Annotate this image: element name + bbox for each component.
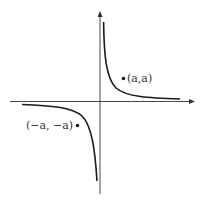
point-label-a-a: (a,a) [127, 72, 152, 85]
hyperbola-branch-quadrant-3 [22, 105, 97, 182]
hyperbola-branch-quadrant-1 [104, 22, 180, 99]
point-neg-a-neg-a [76, 124, 80, 128]
point-a-a [122, 77, 126, 81]
point-label-neg-a-neg-a: (−a, −a) [26, 119, 73, 132]
hyperbola-diagram: (a,a) (−a, −a) [0, 0, 202, 209]
